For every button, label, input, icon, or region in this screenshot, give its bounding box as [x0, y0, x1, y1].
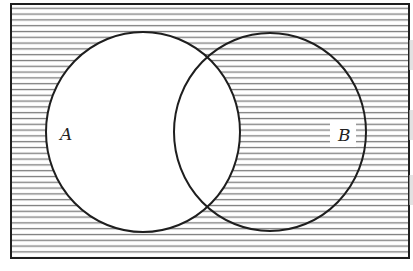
- scan-edge-artifact: [409, 40, 413, 70]
- scan-edge-artifact: [409, 175, 413, 205]
- set-b-label: B: [337, 125, 351, 145]
- venn-diagram: A B: [0, 0, 413, 271]
- set-a-label: A: [58, 124, 72, 144]
- scan-edge-artifact: [409, 110, 413, 140]
